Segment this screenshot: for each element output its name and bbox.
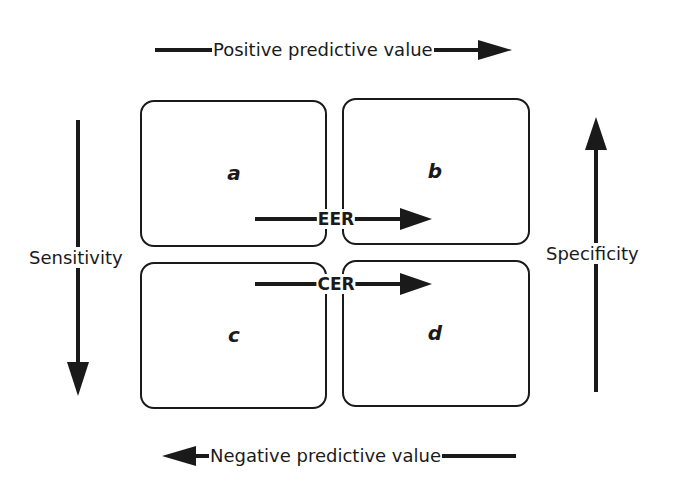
cell-a-label: a	[227, 161, 241, 185]
sensitivity-label: Sensitivity	[28, 247, 124, 268]
specificity-label: Specificity	[545, 243, 640, 264]
eer-label: EER	[317, 209, 355, 229]
cell-c-label: c	[228, 323, 240, 347]
cell-b-label: b	[428, 159, 442, 183]
npv-label: Negative predictive value	[209, 445, 442, 466]
ppv-label: Positive predictive value	[212, 39, 434, 60]
cell-d-label: d	[428, 321, 442, 345]
cer-label: CER	[316, 274, 355, 294]
